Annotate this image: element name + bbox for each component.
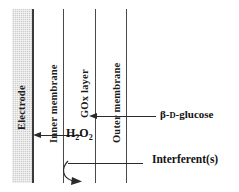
biosensor-diagram: Electrode Inner membrane GOx layer Outer…: [0, 0, 239, 192]
interferent-label: Interferent(s): [152, 153, 218, 165]
inner-membrane-label: Inner membrane: [48, 64, 59, 143]
gox-layer-label: GOx layer: [79, 69, 90, 118]
outer-membrane-label: Outer membrane: [111, 63, 122, 143]
outer-membrane-boundary-line: [126, 9, 127, 183]
glucose-name: -glucose: [176, 108, 214, 120]
glucose-arrow-shaft: [95, 116, 156, 117]
h2o2-sub-2b: 2: [89, 133, 93, 142]
h2o2-species-label: H2O2: [66, 126, 93, 142]
electrode-label: Electrode: [16, 85, 27, 130]
glucose-species-label: β-D-glucose: [160, 108, 214, 120]
h2o2-o: O: [79, 126, 88, 140]
interferent-rejection-curve: [58, 156, 100, 188]
h2o2-h: H: [66, 126, 75, 140]
glucose-arrowhead-icon: [89, 113, 97, 119]
h2o2-arrowhead-icon: [33, 132, 41, 138]
